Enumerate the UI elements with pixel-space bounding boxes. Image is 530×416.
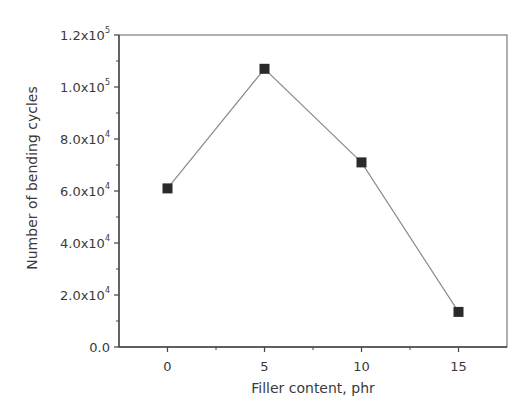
square-marker — [357, 157, 367, 167]
y-tick-label: 0.0 — [89, 340, 110, 355]
line-chart: 0.02.0x1044.0x1046.0x1048.0x1041.0x1051.… — [0, 0, 530, 416]
y-tick-label: 1.2x105 — [60, 26, 110, 43]
plot-border — [119, 35, 507, 347]
x-axis-ticks — [168, 347, 459, 352]
y-axis-ticks — [114, 35, 119, 347]
x-axis-title: Filler content, phr — [251, 380, 375, 396]
y-tick-label: 4.0x104 — [60, 234, 110, 251]
x-tick-label: 5 — [260, 359, 268, 374]
x-axis-tick-labels: 051015 — [163, 359, 466, 374]
y-tick-label: 1.0x105 — [60, 78, 110, 95]
y-tick-label: 8.0x104 — [60, 130, 110, 147]
x-tick-label: 0 — [163, 359, 171, 374]
square-marker — [454, 307, 464, 317]
square-marker — [163, 183, 173, 193]
square-marker — [260, 64, 270, 74]
y-axis-tick-labels: 0.02.0x1044.0x1046.0x1048.0x1041.0x1051.… — [60, 26, 110, 355]
y-tick-label: 6.0x104 — [60, 182, 110, 199]
data-markers — [163, 64, 464, 317]
x-tick-label: 10 — [353, 359, 370, 374]
plot-frame — [119, 35, 507, 347]
series-line — [168, 69, 459, 312]
x-tick-label: 15 — [450, 359, 467, 374]
y-tick-label: 2.0x104 — [60, 286, 110, 303]
y-axis-title: Number of bending cycles — [24, 86, 40, 269]
